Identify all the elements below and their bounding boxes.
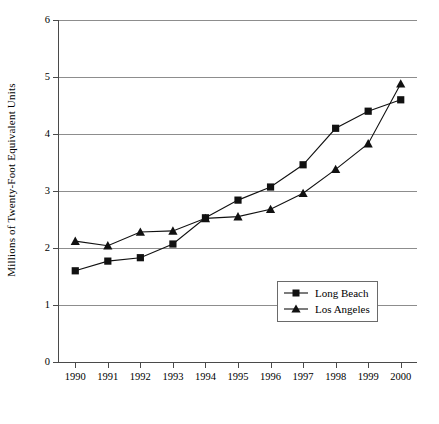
legend-item-long-beach: Long Beach	[283, 285, 370, 301]
series-los-angeles	[71, 79, 406, 249]
data-point-triangle	[331, 165, 340, 173]
x-axis-tick-label: 1990	[65, 371, 86, 382]
chart-legend: Long Beach Los Angeles	[277, 281, 378, 322]
x-axis-tick-label: 1998	[325, 371, 346, 382]
data-point-triangle	[396, 79, 405, 87]
y-axis-title: Millions of Twenty-Foot Equivalent Units	[0, 0, 22, 360]
legend-label-los-angeles: Los Angeles	[315, 303, 370, 315]
data-point-square	[267, 183, 274, 190]
data-point-square	[397, 96, 404, 103]
chart-figure: Millions of Twenty-Foot Equivalent Units…	[0, 0, 439, 424]
x-axis-tick-label: 1991	[97, 371, 118, 382]
x-axis-tick-label: 1999	[358, 371, 379, 382]
data-point-square	[365, 108, 372, 115]
series-line	[75, 100, 400, 271]
x-axis-tick-label: 1994	[195, 371, 216, 382]
data-point-square	[234, 197, 241, 204]
y-axis-tick-label: 5	[45, 72, 50, 82]
x-axis-tick-label: 1992	[130, 371, 151, 382]
data-point-square	[169, 240, 176, 247]
y-axis-tick-label: 0	[45, 357, 50, 367]
y-axis-tick-label: 6	[45, 15, 50, 25]
data-point-square	[137, 254, 144, 261]
y-axis-tick-label: 2	[45, 243, 50, 253]
y-axis-tick-label: 1	[45, 300, 50, 310]
legend-label-long-beach: Long Beach	[315, 287, 368, 299]
data-point-triangle	[266, 205, 275, 213]
data-point-triangle	[71, 237, 80, 245]
legend-item-los-angeles: Los Angeles	[283, 301, 370, 317]
x-axis-tick-label: 1997	[293, 371, 314, 382]
data-point-square	[104, 258, 111, 265]
series-line	[75, 84, 400, 246]
data-point-triangle	[298, 189, 307, 197]
triangle-marker-icon	[283, 303, 309, 315]
data-point-square	[72, 267, 79, 274]
x-axis-tick-label: 1995	[228, 371, 249, 382]
data-point-square	[332, 125, 339, 132]
x-axis-tick-label: 1993	[162, 371, 183, 382]
y-axis-tick-label: 4	[45, 129, 50, 139]
square-marker-icon	[283, 287, 309, 299]
data-point-square	[299, 161, 306, 168]
x-axis-tick-label: 1996	[260, 371, 281, 382]
y-axis-tick-label: 3	[45, 186, 50, 196]
data-point-triangle	[364, 139, 373, 147]
x-axis-tick-label: 2000	[390, 371, 411, 382]
series-long-beach	[72, 96, 405, 274]
x-axis-line	[59, 362, 417, 363]
